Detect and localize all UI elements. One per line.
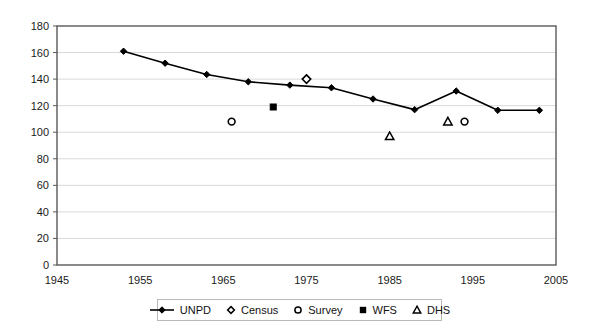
marker-open-triangle [444,117,452,125]
data-point-dhs [385,132,393,140]
y-axis-tick-label: 160 [31,47,49,59]
data-point-wfs [270,104,276,110]
data-point-dhs [444,117,452,125]
legend-item-dhs[interactable]: DHS [404,304,457,316]
x-axis-tick-label: 1955 [128,274,152,286]
y-axis-tick-label: 80 [37,153,49,165]
marker-open-circle [461,118,468,125]
marker-filled-square [270,104,276,110]
chart-container: 0204060801001201401601801945195519651975… [0,0,596,334]
marker-filled-diamond [536,107,542,113]
x-axis-tick-label: 1975 [294,274,318,286]
legend-item-survey[interactable]: Survey [285,304,349,316]
legend-item-label: UNPD [180,304,211,316]
legend-item-label: Survey [308,304,342,316]
series-census [302,75,310,83]
y-axis-tick-label: 100 [31,126,49,138]
legend-item-unpd[interactable]: UNPD [142,304,218,316]
series-line-unpd [124,51,540,110]
y-axis-tick-label: 40 [37,206,49,218]
y-axis-tick-label: 60 [37,179,49,191]
series-unpd [120,48,542,113]
data-point-unpd [411,106,417,112]
legend-item-label: WFS [373,304,397,316]
data-point-unpd [453,88,459,94]
x-axis-tick-label: 1985 [377,274,401,286]
marker-open-triangle [385,132,393,140]
marker-filled-diamond [453,88,459,94]
data-point-unpd [370,96,376,102]
data-point-unpd [204,71,210,77]
data-point-unpd [162,60,168,66]
y-axis-tick-label: 120 [31,100,49,112]
legend-item-label: DHS [427,304,450,316]
x-axis-tick-label: 2005 [544,274,568,286]
data-point-survey [461,118,468,125]
marker-filled-diamond [411,106,417,112]
data-point-unpd [536,107,542,113]
series-dhs [385,117,452,139]
legend-marker-open-triangle-icon [411,304,422,316]
data-point-unpd [495,107,501,113]
data-point-unpd [287,82,293,88]
x-axis-tick-label: 1965 [211,274,235,286]
data-point-unpd [120,48,126,54]
series-wfs [270,104,276,110]
chart-legend: UNPDCensusSurveyWFSDHS [157,299,442,321]
legend-marker-open-diamond-icon [225,304,236,316]
x-axis-tick-label: 1945 [45,274,69,286]
marker-open-diamond [302,75,310,83]
marker-open-circle [228,118,235,125]
x-axis-tick-label: 1995 [461,274,485,286]
data-point-survey [228,118,235,125]
y-axis-tick-label: 140 [31,73,49,85]
marker-filled-diamond [495,107,501,113]
legend-marker-open-circle-icon [292,304,303,316]
y-axis-tick-label: 180 [31,20,49,32]
marker-filled-diamond [204,71,210,77]
line-chart-plot: 0204060801001201401601801945195519651975… [0,0,596,334]
marker-filled-diamond [370,96,376,102]
data-point-unpd [328,85,334,91]
legend-item-label: Census [241,304,278,316]
series-survey [228,118,468,125]
y-axis-tick-label: 20 [37,232,49,244]
legend-marker-filled-square-icon [357,304,368,316]
legend-item-wfs[interactable]: WFS [350,304,404,316]
marker-filled-diamond [120,48,126,54]
marker-filled-diamond [287,82,293,88]
y-axis-tick-label: 0 [43,259,49,271]
plot-border [57,26,556,265]
legend-marker-line-filled-diamond-icon [149,304,175,316]
data-point-census [302,75,310,83]
marker-filled-diamond [328,85,334,91]
legend-item-census[interactable]: Census [218,304,285,316]
marker-filled-diamond [162,60,168,66]
